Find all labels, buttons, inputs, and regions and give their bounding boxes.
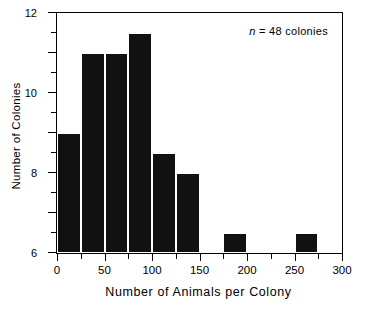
- x-axis-minor-tick: [128, 253, 129, 259]
- x-axis-minor-tick: [176, 253, 177, 259]
- x-axis-tick-label: 150: [190, 264, 209, 276]
- plot-area: 024681012050100150200250300n = 48 coloni…: [56, 12, 343, 254]
- plot-inner: 024681012050100150200250300n = 48 coloni…: [57, 13, 342, 253]
- x-axis-title: Number of Animals per Colony: [56, 285, 341, 299]
- histogram-bar: [57, 133, 81, 253]
- x-axis-tick-label: 250: [285, 264, 304, 276]
- y-axis-major-tick: 12: [48, 12, 57, 13]
- x-axis-minor-tick: [271, 253, 272, 259]
- x-axis-tick-label: 100: [142, 264, 161, 276]
- x-axis-major-tick: [105, 253, 106, 261]
- x-axis-major-tick: [152, 253, 153, 261]
- y-axis-minor-tick: [51, 112, 57, 113]
- y-axis-title: Number of Colonies: [10, 46, 22, 226]
- x-axis-major-tick: [57, 253, 58, 261]
- y-axis-tick-label: 10: [25, 87, 37, 99]
- annotation-text: = 48 colonies: [256, 25, 328, 37]
- histogram-figure: Number of Colonies 024681012050100150200…: [0, 0, 372, 311]
- x-axis-tick-label: 300: [332, 264, 351, 276]
- x-axis-major-tick: [342, 253, 343, 261]
- x-axis-minor-tick: [223, 253, 224, 259]
- x-axis-major-tick: [200, 253, 201, 261]
- y-axis-major-tick: 6: [48, 132, 57, 133]
- y-axis-minor-tick: [51, 192, 57, 193]
- x-axis-minor-tick: [318, 253, 319, 259]
- histogram-bar: [81, 53, 105, 253]
- x-axis-tick-label: 200: [237, 264, 256, 276]
- x-axis-major-tick: [247, 253, 248, 261]
- y-axis-tick-label: 12: [25, 7, 37, 19]
- y-axis-tick-label: 6: [31, 247, 37, 259]
- y-axis-major-tick: 2: [48, 212, 57, 213]
- histogram-bar: [105, 53, 129, 253]
- y-axis-major-tick: 8: [48, 92, 57, 93]
- x-axis-tick-label: 50: [98, 264, 111, 276]
- y-axis-minor-tick: [51, 32, 57, 33]
- x-axis-minor-tick: [81, 253, 82, 259]
- y-axis-major-tick: 4: [48, 172, 57, 173]
- x-axis-major-tick: [295, 253, 296, 261]
- histogram-bar: [176, 173, 200, 253]
- histogram-bar: [295, 233, 319, 253]
- x-axis-tick-label: 0: [54, 264, 60, 276]
- y-axis-minor-tick: [51, 232, 57, 233]
- sample-size-annotation: n = 48 colonies: [249, 25, 328, 37]
- y-axis-minor-tick: [51, 72, 57, 73]
- y-axis-minor-tick: [51, 152, 57, 153]
- y-axis-major-tick: 10: [48, 52, 57, 53]
- y-axis-tick-label: 8: [31, 167, 37, 179]
- histogram-bar: [152, 153, 176, 253]
- y-axis-major-tick: 0: [48, 252, 57, 253]
- histogram-bar: [128, 33, 152, 253]
- histogram-bar: [223, 233, 247, 253]
